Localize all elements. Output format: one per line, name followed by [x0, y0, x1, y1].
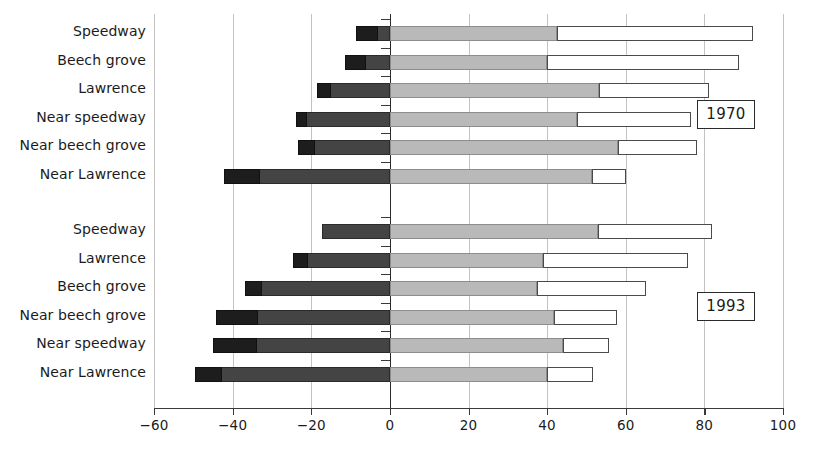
bar-segment-dark-gray-negative	[195, 367, 390, 382]
x-axis-label-0: 0	[385, 417, 394, 433]
bar-segment-light-gray-positive	[390, 140, 618, 155]
x-axis-label-40: 40	[538, 417, 556, 433]
bar-segment-light-gray-positive	[390, 281, 537, 296]
bar-row	[154, 253, 783, 268]
bar-segment-white-positive	[554, 310, 617, 325]
y-tick	[381, 76, 390, 77]
y-tick	[381, 360, 390, 361]
bar-segment-black-negative	[298, 140, 315, 155]
bar-segment-black-negative	[317, 83, 331, 98]
bar-segment-white-positive	[592, 169, 626, 184]
x-tick-100	[783, 408, 784, 415]
bar-segment-white-positive	[557, 26, 753, 41]
bar-row	[154, 367, 783, 382]
category-label: Near Lawrence	[40, 166, 146, 182]
category-label: Near speedway	[36, 109, 146, 125]
bar-segment-white-positive	[547, 367, 593, 382]
bar-segment-light-gray-positive	[390, 253, 543, 268]
bar-segment-white-positive	[577, 112, 691, 127]
x-axis-line	[154, 408, 783, 409]
x-axis-label--60: −60	[139, 417, 168, 433]
x-axis-label-100: 100	[770, 417, 796, 433]
group-box-1970: 1970	[697, 100, 755, 129]
bar-segment-white-positive	[547, 55, 739, 70]
bar-segment-light-gray-positive	[390, 310, 554, 325]
bar-segment-light-gray-positive	[390, 338, 563, 353]
bar-segment-black-negative	[245, 281, 263, 296]
x-axis-label-80: 80	[696, 417, 714, 433]
y-tick	[381, 274, 390, 275]
bar-segment-black-negative	[345, 55, 367, 70]
bar-segment-light-gray-positive	[390, 224, 598, 239]
category-label: Near beech grove	[20, 307, 146, 323]
bar-segment-dark-gray-negative	[245, 281, 390, 296]
bar-row	[154, 281, 783, 296]
bar-segment-white-positive	[563, 338, 609, 353]
bar-segment-black-negative	[296, 112, 308, 127]
y-tick	[381, 246, 390, 247]
gridline-100	[783, 14, 784, 408]
category-label: Near speedway	[36, 335, 146, 351]
bar-segment-white-positive	[618, 140, 697, 155]
bar-segment-black-negative	[195, 367, 222, 382]
category-label: Lawrence	[78, 250, 146, 266]
y-tick	[381, 331, 390, 332]
y-tick	[381, 48, 390, 49]
y-tick	[381, 303, 390, 304]
bar-segment-black-negative	[356, 26, 378, 41]
category-label: Beech grove	[57, 52, 146, 68]
bar-row	[154, 26, 783, 41]
category-label: Near Lawrence	[40, 364, 146, 380]
bar-row	[154, 310, 783, 325]
category-label: Beech grove	[57, 278, 146, 294]
x-axis-label-60: 60	[617, 417, 635, 433]
bar-segment-dark-gray-negative	[296, 112, 390, 127]
x-axis-label--40: −40	[218, 417, 247, 433]
y-tick	[381, 133, 390, 134]
y-tick	[381, 105, 390, 106]
bar-segment-light-gray-positive	[390, 55, 547, 70]
horizontal-diverging-bar-chart: SpeedwayBeech groveLawrenceNear speedway…	[0, 0, 835, 458]
bar-segment-light-gray-positive	[390, 169, 592, 184]
category-label-column: SpeedwayBeech groveLawrenceNear speedway…	[0, 0, 146, 458]
bar-segment-light-gray-positive	[390, 367, 547, 382]
bar-row	[154, 224, 783, 239]
bar-row	[154, 338, 783, 353]
bar-row	[154, 112, 783, 127]
bar-segment-black-negative	[224, 169, 260, 184]
bar-segment-white-positive	[598, 224, 712, 239]
bar-segment-light-gray-positive	[390, 112, 577, 127]
category-label: Near beech grove	[20, 137, 146, 153]
bar-row	[154, 83, 783, 98]
category-label: Lawrence	[78, 80, 146, 96]
bar-segment-light-gray-positive	[390, 83, 599, 98]
plot-area: −60−40−20020406080100	[154, 14, 783, 408]
x-axis-label-20: 20	[460, 417, 478, 433]
bar-row	[154, 55, 783, 70]
bar-row	[154, 140, 783, 155]
category-label: Speedway	[73, 221, 146, 237]
group-box-1993: 1993	[697, 292, 755, 321]
bar-segment-black-negative	[216, 310, 258, 325]
bar-segment-white-positive	[537, 281, 646, 296]
bar-segment-dark-gray-negative	[322, 224, 390, 239]
bar-row	[154, 169, 783, 184]
bar-segment-light-gray-positive	[390, 26, 557, 41]
bar-segment-white-positive	[599, 83, 709, 98]
category-label: Speedway	[73, 23, 146, 39]
y-tick	[381, 217, 390, 218]
x-axis-label--20: −20	[297, 417, 326, 433]
bar-segment-white-positive	[543, 253, 688, 268]
y-tick	[381, 162, 390, 163]
bar-segment-black-negative	[213, 338, 257, 353]
bar-segment-black-negative	[293, 253, 308, 268]
y-tick	[381, 19, 390, 20]
